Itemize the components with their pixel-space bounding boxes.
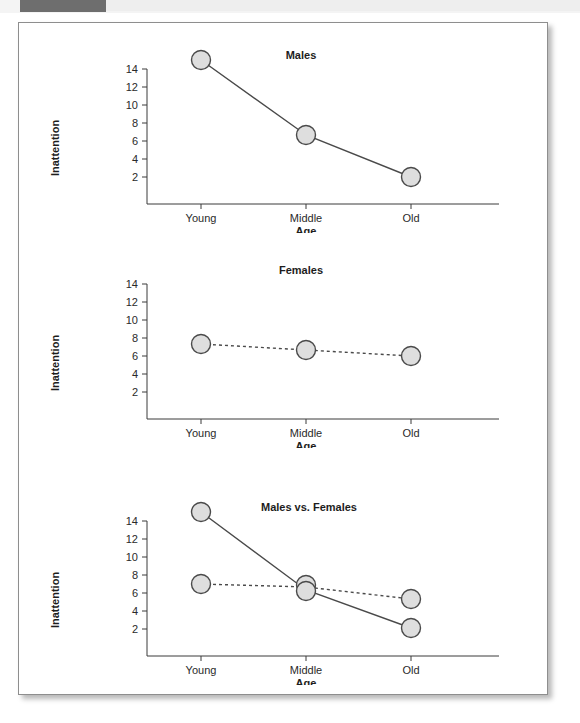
- y-tick-label: 4: [132, 368, 138, 380]
- x-axis-title: Age: [296, 440, 317, 448]
- x-axis-title: Age: [296, 677, 317, 685]
- x-axis: Young Middle Old: [147, 419, 499, 439]
- x-tick-label: Young: [186, 212, 217, 224]
- x-tick-label: Old: [402, 664, 419, 676]
- data-point-marker: [297, 582, 316, 601]
- y-tick-label: 10: [126, 314, 138, 326]
- y-tick-label: 4: [132, 153, 138, 165]
- y-tick-label: 12: [126, 296, 138, 308]
- x-axis-title: Age: [296, 225, 317, 233]
- y-tick-label: 6: [132, 350, 138, 362]
- y-axis-title: Inattention: [49, 335, 61, 391]
- y-tick-label: 2: [132, 171, 138, 183]
- chart-title: Females: [279, 264, 323, 276]
- y-axis: 14 12 10 8 6 4 2: [126, 515, 147, 656]
- markers-males: [192, 503, 421, 638]
- chart-females-svg: Females Inattention 14 12 10 8 6 4: [19, 248, 549, 448]
- y-axis-title: Inattention: [49, 120, 61, 176]
- y-tick-label: 8: [132, 332, 138, 344]
- data-point-marker: [192, 335, 211, 354]
- y-tick-label: 12: [126, 81, 138, 93]
- scan-header-band: [0, 0, 580, 13]
- y-tick-label: 2: [132, 623, 138, 635]
- figure-page-panel: Males Inattention 14 12 10 8 6 4: [18, 22, 548, 695]
- y-tick-label: 14: [126, 515, 138, 527]
- data-point-marker: [192, 575, 211, 594]
- data-point-marker: [402, 619, 421, 638]
- y-tick-label: 12: [126, 533, 138, 545]
- series-line: [201, 60, 411, 177]
- data-point-marker: [402, 168, 421, 187]
- y-tick-label: 4: [132, 605, 138, 617]
- y-tick-label: 10: [126, 551, 138, 563]
- x-tick-label: Middle: [290, 427, 322, 439]
- data-point-marker: [297, 126, 316, 145]
- chart-title: Males: [286, 49, 317, 61]
- x-tick-label: Old: [402, 427, 419, 439]
- y-axis: 14 12 10 8 6 4 2: [126, 63, 147, 204]
- y-tick-label: 8: [132, 569, 138, 581]
- data-point-marker: [402, 590, 421, 609]
- y-tick-label: 6: [132, 135, 138, 147]
- chart-title: Males vs. Females: [261, 501, 357, 513]
- y-tick-label: 2: [132, 386, 138, 398]
- data-point-marker: [297, 341, 316, 360]
- data-point-marker: [192, 503, 211, 522]
- x-tick-label: Young: [186, 664, 217, 676]
- chart-males-vs-females-svg: Males vs. Females Inattention 14 12 10 8…: [19, 485, 549, 685]
- series-females: [192, 335, 421, 366]
- y-tick-label: 10: [126, 99, 138, 111]
- x-tick-label: Middle: [290, 212, 322, 224]
- y-tick-group: 14 12 10 8 6 4 2: [126, 278, 147, 398]
- x-tick-label: Middle: [290, 664, 322, 676]
- data-point-marker: [402, 347, 421, 366]
- y-tick-group: 14 12 10 8 6 4 2: [126, 515, 147, 635]
- series-line: [201, 512, 411, 628]
- data-point-marker: [192, 51, 211, 70]
- y-tick-label: 14: [126, 278, 138, 290]
- chart-females: Females Inattention 14 12 10 8 6 4: [19, 248, 549, 448]
- chart-males: Males Inattention 14 12 10 8 6 4: [19, 33, 549, 233]
- y-axis-title: Inattention: [49, 572, 61, 628]
- y-tick-group: 14 12 10 8 6 4 2: [126, 63, 147, 183]
- series-males: [201, 512, 411, 628]
- y-tick-label: 14: [126, 63, 138, 75]
- x-axis: Young Middle Old: [147, 204, 499, 224]
- y-tick-label: 6: [132, 587, 138, 599]
- series-males: [192, 51, 421, 187]
- chart-males-vs-females: Males vs. Females Inattention 14 12 10 8…: [19, 485, 549, 685]
- scan-header-light-bar: [106, 0, 580, 11]
- y-axis: 14 12 10 8 6 4 2: [126, 278, 147, 419]
- scan-header-dark-bar: [20, 0, 106, 12]
- x-axis: Young Middle Old: [147, 656, 499, 676]
- chart-males-svg: Males Inattention 14 12 10 8 6 4: [19, 33, 549, 233]
- x-tick-label: Old: [402, 212, 419, 224]
- x-tick-label: Young: [186, 427, 217, 439]
- y-tick-label: 8: [132, 117, 138, 129]
